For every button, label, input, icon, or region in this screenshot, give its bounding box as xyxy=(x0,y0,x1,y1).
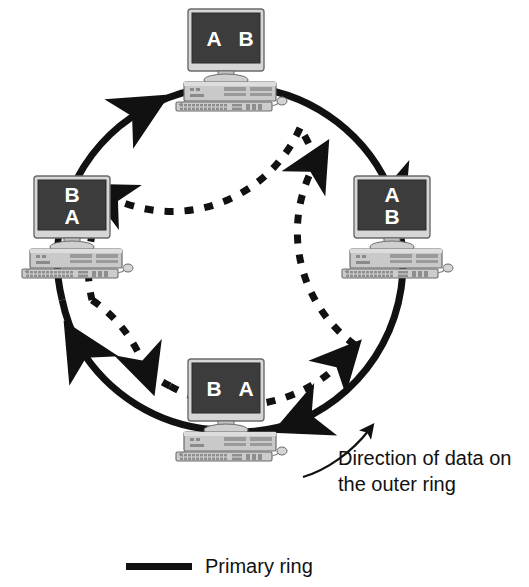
computer-icon xyxy=(172,8,288,112)
diagram-canvas: A B xyxy=(0,0,529,587)
screen-label-a: A xyxy=(382,184,402,205)
computer-node-right[interactable]: A B xyxy=(338,175,454,279)
screen-label-b: B xyxy=(62,184,82,205)
inner-ring-arc-left-bottom xyxy=(92,300,146,371)
legend: Primary ring xyxy=(126,556,313,576)
screen-label-a: B xyxy=(204,378,224,399)
computer-node-bottom[interactable]: B A xyxy=(172,358,288,462)
screen-label-a: A xyxy=(204,28,224,49)
screen-label-a: A xyxy=(62,206,82,227)
screen-label-b: B xyxy=(382,206,402,227)
screen-label-b: A xyxy=(236,378,256,399)
computer-node-left[interactable]: B A xyxy=(18,175,134,279)
computer-icon xyxy=(172,358,288,462)
legend-swatch-primary-ring xyxy=(126,563,192,570)
annotation-line-1: Direction of data on xyxy=(338,445,528,471)
inner-ring-stub-bottom xyxy=(146,371,170,386)
outer-ring-stub-left xyxy=(62,300,79,347)
inner-ring-stub-top xyxy=(300,128,316,162)
annotation-line-2: the outer ring xyxy=(338,471,528,497)
inner-ring-arc-top-left xyxy=(108,128,300,211)
legend-label-primary-ring: Primary ring xyxy=(205,556,313,576)
screen-label-b: B xyxy=(236,28,256,49)
direction-annotation: Direction of data on the outer ring xyxy=(338,445,528,497)
computer-node-top[interactable]: A B xyxy=(172,8,288,112)
